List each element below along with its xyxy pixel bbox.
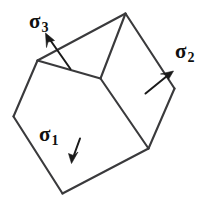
sigma1-symbol: σ [39,122,50,146]
edge-center-to-bottomright [101,79,149,149]
sigma2-subscript: 2 [187,50,194,65]
sigma3-symbol: σ [29,9,40,33]
cube-right-face [126,14,175,149]
edge-right-to-bottomright [149,89,175,149]
cube-left-face [14,61,149,194]
sigma2-arrow-shaft [146,76,168,94]
cube-top-face [38,14,126,79]
sigma1-arrow-head [69,152,79,164]
sigma1-subscript: 1 [51,133,58,148]
sigma3-label: σ3 [29,11,48,35]
sigma1-label: σ1 [39,124,58,148]
edge-top-to-center [101,14,126,79]
edge-topleft-to-left [14,61,38,117]
sigma3-subscript: 3 [41,20,48,35]
sigma2-symbol: σ [175,39,186,63]
stress-cube-figure: σ3 σ2 σ1 [0,0,210,203]
sigma1-arrow [69,139,81,164]
edge-center-to-topleft [38,61,101,79]
sigma2-label: σ2 [175,41,194,65]
